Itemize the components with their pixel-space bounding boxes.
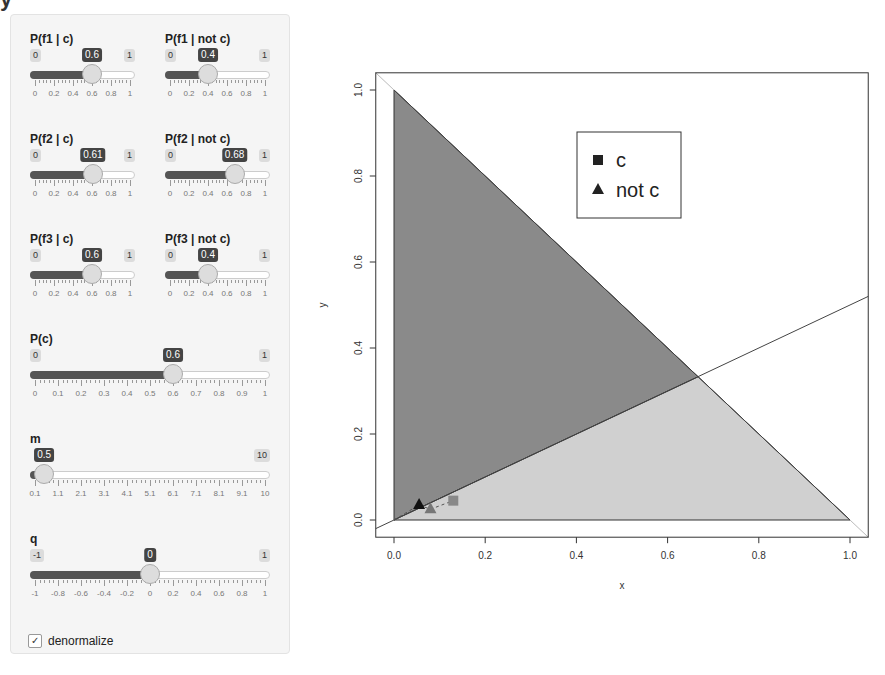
slider-m[interactable]: m100.50.11.12.13.14.15.16.17.18.19.110 <box>30 432 270 502</box>
tick-mark <box>65 180 66 183</box>
slider-handle[interactable] <box>34 464 54 484</box>
slider-ticks <box>30 380 270 386</box>
tick-mark <box>214 580 215 583</box>
tick-mark <box>193 80 194 83</box>
tick-mark <box>35 480 36 486</box>
slider-min: 0 <box>30 349 41 362</box>
tick-mark <box>208 180 209 186</box>
tick-mark <box>235 80 236 83</box>
square-marker-icon <box>448 496 458 506</box>
tick-mark <box>81 580 82 586</box>
tick-mark <box>246 80 247 86</box>
slider-tick-label: 1 <box>263 389 267 398</box>
tick-mark <box>86 480 87 483</box>
tick-mark <box>228 480 229 483</box>
tick-mark <box>201 480 202 483</box>
tick-mark <box>201 580 202 583</box>
slider-tick-label: 0.2 <box>48 289 59 298</box>
tick-mark <box>44 580 45 583</box>
tick-mark <box>196 480 197 486</box>
slider-tick-label: 0 <box>148 589 152 598</box>
slider-value: 0.4 <box>198 48 218 62</box>
slider-handle[interactable] <box>163 364 183 384</box>
x-tick-label: 0.6 <box>661 550 675 561</box>
slider-pf2c[interactable]: P(f2 | c)010.6100.20.40.60.81 <box>30 132 135 202</box>
slider-handle[interactable] <box>198 264 218 284</box>
slider-handle[interactable] <box>83 164 103 184</box>
slider-handle[interactable] <box>140 564 160 584</box>
tick-mark <box>250 280 251 283</box>
tick-mark <box>191 580 192 583</box>
tick-mark <box>54 80 55 86</box>
slider-pf1c[interactable]: P(f1 | c)010.600.20.40.60.81 <box>30 32 135 102</box>
tick-mark <box>189 280 190 286</box>
slider-ticks <box>30 80 135 86</box>
slider-tick-label: 0.8 <box>236 589 247 598</box>
slider-pf2nc[interactable]: P(f2 | not c)010.6800.20.40.60.81 <box>165 132 270 202</box>
slider-label: P(f1 | c) <box>30 32 73 46</box>
tick-mark <box>219 280 220 283</box>
y-tick-label: 0.8 <box>353 169 364 183</box>
tick-mark <box>246 180 247 186</box>
slider-tick-label: 0.1 <box>29 489 40 498</box>
tick-mark <box>67 380 68 383</box>
slider-tick-label: 0.6 <box>86 89 97 98</box>
tick-mark <box>170 180 171 186</box>
tick-mark <box>216 280 217 283</box>
slider-pf3c[interactable]: P(f3 | c)010.600.20.40.60.81 <box>30 232 135 302</box>
tick-mark <box>136 580 137 583</box>
slider-tick-label: 0 <box>168 189 172 198</box>
slider-tick-label: 0 <box>33 289 37 298</box>
tick-mark <box>63 380 64 383</box>
tick-mark <box>122 480 123 483</box>
denormalize-checkbox-row[interactable]: ✓ denormalize <box>28 634 113 648</box>
slider-pc[interactable]: P(c)010.600.10.20.30.40.50.60.70.80.91 <box>30 332 270 402</box>
slider-handle[interactable] <box>82 264 102 284</box>
slider-pf1nc[interactable]: P(f1 | not c)010.400.20.40.60.81 <box>165 32 270 102</box>
tick-mark <box>210 480 211 483</box>
slider-ticks <box>165 280 270 286</box>
slider-pf3nc[interactable]: P(f3 | not c)010.400.20.40.60.81 <box>165 232 270 302</box>
y-tick-label: 0.4 <box>353 341 364 355</box>
slider-max: 1 <box>124 49 135 62</box>
tick-mark <box>227 80 228 86</box>
slider-tick-label: 0.2 <box>183 189 194 198</box>
tick-mark <box>86 380 87 383</box>
tick-mark <box>99 580 100 583</box>
tick-mark <box>265 380 266 386</box>
slider-handle[interactable] <box>225 164 245 184</box>
slider-track[interactable] <box>30 471 270 479</box>
tick-mark <box>58 180 59 183</box>
denormalize-checkbox[interactable]: ✓ <box>28 634 42 648</box>
slider-q[interactable]: q-110-1-0.8-0.6-0.4-0.200.20.40.60.81 <box>30 532 270 602</box>
slider-tick-label: 5.1 <box>144 489 155 498</box>
slider-tick-label: 0.4 <box>190 589 201 598</box>
tick-mark <box>223 280 224 283</box>
slider-tick-label: 4.1 <box>121 489 132 498</box>
tick-mark <box>214 380 215 383</box>
slider-value: 0.6 <box>82 248 102 262</box>
slider-max: 1 <box>259 349 270 362</box>
tick-mark <box>170 280 171 286</box>
tick-mark <box>233 580 234 583</box>
tick-mark <box>265 180 266 186</box>
tick-mark <box>178 480 179 483</box>
slider-handle[interactable] <box>198 64 218 84</box>
tick-mark <box>107 80 108 83</box>
tick-mark <box>189 80 190 86</box>
tick-mark <box>99 380 100 383</box>
slider-tick-label: 0.6 <box>213 589 224 598</box>
page-title-fragment: y <box>0 0 12 12</box>
tick-mark <box>126 80 127 83</box>
tick-mark <box>107 180 108 183</box>
slider-handle[interactable] <box>82 64 102 84</box>
tick-mark <box>109 580 110 583</box>
slider-tick-label: 0.6 <box>221 289 232 298</box>
slider-tick-label: -0.8 <box>51 589 65 598</box>
tick-mark <box>196 380 197 386</box>
tick-mark <box>189 180 190 186</box>
tick-mark <box>261 280 262 283</box>
tick-mark <box>122 80 123 83</box>
tick-mark <box>40 580 41 583</box>
tick-mark <box>119 280 120 283</box>
